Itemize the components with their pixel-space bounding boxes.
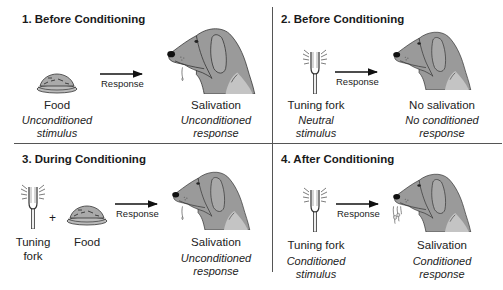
- arrow-icon: [100, 70, 144, 78]
- dog-salivating-icon: [166, 24, 256, 94]
- outcome-label: Salivation: [176, 235, 256, 249]
- stimulus-caption-line1: Unconditioned: [12, 114, 102, 127]
- arrow-icon: [336, 200, 380, 208]
- vertical-divider: [272, 7, 273, 272]
- horizontal-divider: [14, 143, 502, 144]
- outcome-caption-line1: Unconditioned: [166, 252, 266, 265]
- arrow-label: Response: [101, 78, 144, 89]
- outcome-caption-line2: response: [390, 268, 494, 281]
- dog-salivating-icon: [166, 168, 256, 230]
- stimulus-label: Tuning fork: [280, 238, 352, 252]
- stimulus-caption-line1: Conditioned: [280, 255, 352, 268]
- plus-sign: +: [49, 211, 56, 225]
- stimulus-caption-line2: stimulus: [280, 127, 352, 140]
- outcome-caption-line1: Unconditioned: [166, 114, 266, 127]
- outcome-caption-line1: Conditioned: [390, 255, 494, 268]
- arrow-icon: [335, 68, 379, 76]
- stimulus-label-line2: fork: [13, 249, 53, 263]
- stimulus-label: Food: [27, 98, 87, 112]
- food-bowl-icon: [36, 72, 78, 94]
- panel-title: 2. Before Conditioning: [281, 13, 404, 25]
- tuning-fork-icon: [20, 183, 46, 229]
- outcome-label: Salivation: [394, 238, 490, 252]
- outcome-caption-line2: response: [166, 127, 266, 140]
- stimulus-caption-line2: stimulus: [280, 268, 352, 281]
- stimulus-caption-line1: Neutral: [280, 114, 352, 127]
- outcome-label: No salivation: [394, 98, 490, 112]
- outcome-caption-line1: No conditioned: [390, 114, 494, 127]
- arrow-label: Response: [116, 208, 159, 219]
- stimulus-caption-line2: stimulus: [12, 127, 102, 140]
- arrow-label: Response: [337, 208, 380, 219]
- stimulus-label: Tuning: [13, 235, 53, 249]
- outcome-caption-line2: response: [390, 127, 494, 140]
- panel-title: 1. Before Conditioning: [22, 13, 145, 25]
- tuning-fork-icon: [302, 186, 328, 232]
- stimulus-label: Food: [67, 235, 107, 249]
- dog-icon: [384, 28, 480, 90]
- outcome-label: Salivation: [176, 98, 256, 112]
- arrow-icon: [115, 200, 159, 208]
- panel-title: 3. During Conditioning: [22, 153, 146, 165]
- food-bowl-icon: [66, 204, 108, 226]
- stimulus-label: Tuning fork: [280, 98, 352, 112]
- panel-title: 4. After Conditioning: [281, 153, 394, 165]
- outcome-caption-line2: response: [166, 265, 266, 278]
- tuning-fork-icon: [302, 48, 328, 94]
- arrow-label: Response: [336, 76, 379, 87]
- dog-salivating-heavy-icon: [384, 170, 480, 232]
